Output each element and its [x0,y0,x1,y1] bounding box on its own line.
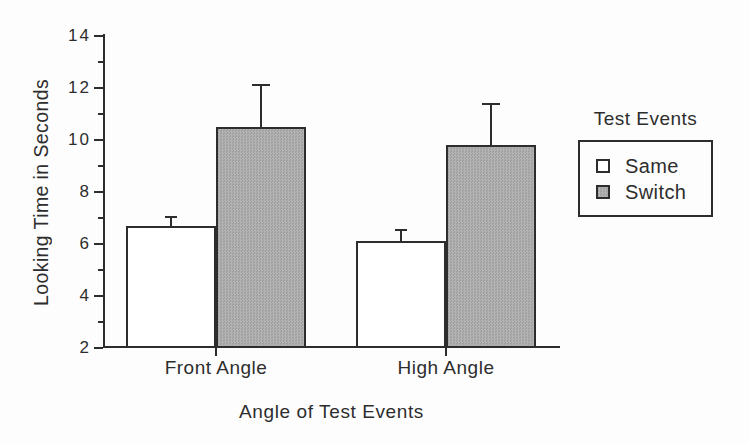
y-major-tick [94,35,103,37]
legend-label-switch: Switch [625,181,686,203]
error-bar-stem-high-angle-switch [490,104,492,146]
x-tick [445,348,447,356]
y-minor-tick [98,165,103,167]
bar-front-angle-same [126,226,216,348]
y-tick-label: 14 [49,26,91,46]
y-major-tick [94,243,103,245]
plot-area: 2468101214Front AngleHigh Angle [103,36,560,348]
error-bar-stem-high-angle-same [400,230,402,242]
y-minor-tick [98,113,103,115]
x-tick [215,348,217,356]
y-axis-line [103,34,105,348]
error-bar-cap-front-angle-switch [252,84,270,86]
y-minor-tick [98,269,103,271]
legend-item-switch: Switch [596,181,711,203]
bar-high-angle-switch [446,145,536,348]
same-swatch-icon [596,159,610,173]
y-tick-label: 6 [49,234,91,254]
y-minor-tick [98,217,103,219]
y-tick-label: 8 [49,182,91,202]
y-major-tick [94,191,103,193]
x-category-label: Front Angle [121,356,311,380]
y-major-tick [94,295,103,297]
error-bar-cap-high-angle-same [395,229,407,231]
switch-swatch-icon [596,185,610,199]
error-bar-stem-front-angle-same [170,217,172,226]
x-axis-title: Angle of Test Events [103,400,560,424]
legend-label-same: Same [625,155,679,177]
x-category-label: High Angle [351,356,541,380]
y-major-tick [94,347,103,349]
y-tick-label: 10 [49,130,91,150]
error-bar-cap-high-angle-switch [482,103,500,105]
looking-time-bar-chart: Looking Time in Seconds 2468101214Front … [0,0,749,443]
legend-box: Same Switch [578,140,713,217]
y-tick-label: 12 [49,78,91,98]
error-bar-cap-front-angle-same [165,216,177,218]
bar-high-angle-same [356,241,446,348]
y-tick-label: 4 [49,286,91,306]
legend-title: Test Events [574,107,717,131]
y-major-tick [94,139,103,141]
y-tick-label: 2 [49,338,91,358]
error-bar-stem-front-angle-switch [260,85,262,127]
y-major-tick [94,87,103,89]
y-minor-tick [98,321,103,323]
y-minor-tick [98,61,103,63]
legend-item-same: Same [596,155,711,177]
bar-front-angle-switch [216,127,306,348]
